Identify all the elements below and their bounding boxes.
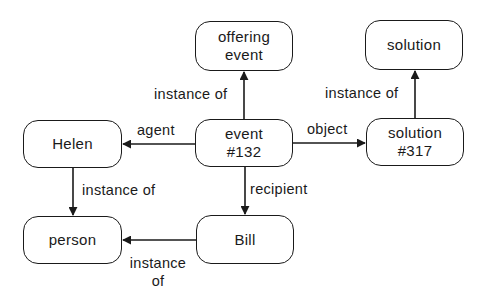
node-person[interactable]: person xyxy=(23,216,122,264)
node-bill[interactable]: Bill xyxy=(196,215,294,264)
edge-label-bill-to-person-line1: instance xyxy=(126,254,190,272)
node-solution-317[interactable]: solution #317 xyxy=(366,118,464,166)
semantic-network-diagram: offering event solution Helen event #132… xyxy=(0,0,483,302)
node-helen[interactable]: Helen xyxy=(23,120,122,168)
edge-label-event-to-offering: instance of xyxy=(154,85,227,103)
node-person-label: person xyxy=(49,231,97,249)
node-offering-event-line1: offering xyxy=(218,28,270,46)
node-helen-label: Helen xyxy=(52,135,93,153)
node-event-132-line1: event xyxy=(225,125,263,143)
node-solution-317-line2: #317 xyxy=(398,142,433,160)
node-event-132-line2: #132 xyxy=(227,143,262,161)
edge-label-agent: agent xyxy=(137,121,175,139)
edge-label-bill-to-person-line2: of xyxy=(126,272,190,290)
node-offering-event-line2: event xyxy=(225,46,263,64)
edge-label-helen-to-person: instance of xyxy=(82,181,155,199)
node-event-132[interactable]: event #132 xyxy=(195,119,293,167)
node-bill-label: Bill xyxy=(234,231,255,249)
node-solution[interactable]: solution xyxy=(365,20,463,70)
edge-label-recipient: recipient xyxy=(250,180,308,198)
node-solution-317-line1: solution xyxy=(388,124,442,142)
edge-label-solution317-to-solution: instance of xyxy=(325,84,398,102)
node-offering-event[interactable]: offering event xyxy=(195,21,293,71)
node-solution-label: solution xyxy=(387,36,441,54)
edge-label-object: object xyxy=(307,120,348,138)
edge-label-bill-to-person: instance of xyxy=(126,254,190,290)
